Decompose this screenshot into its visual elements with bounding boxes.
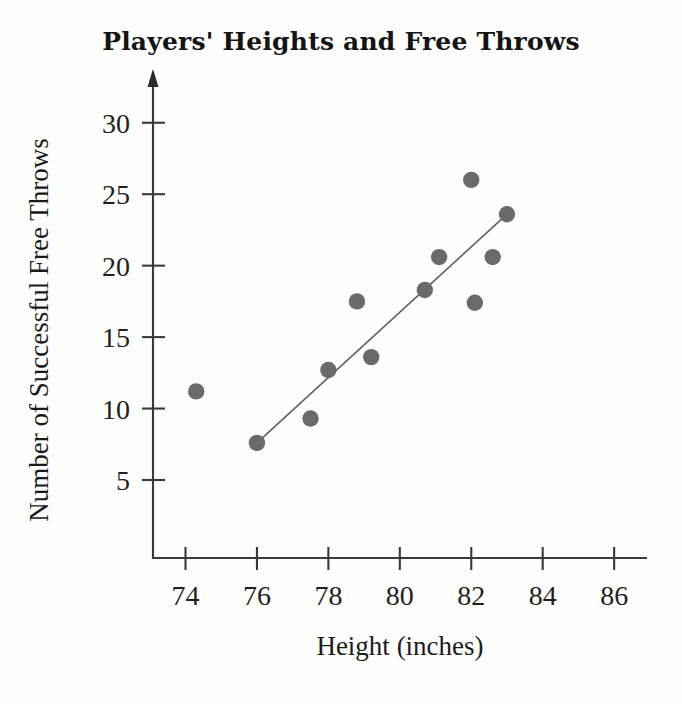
data-point [417,282,433,298]
data-point [484,249,500,265]
y-axis [148,69,159,559]
x-tick-label-76: 76 [243,580,271,611]
x-tick-label-86: 86 [600,580,628,611]
data-point [467,295,483,311]
y-axis-title: Number of Successful Free Throws [24,138,54,521]
y-tick-label-10: 10 [102,394,130,425]
y-tick-label-30: 30 [102,108,130,139]
y-axis-arrow-icon [148,69,159,87]
scatter-plot-figure: Players' Heights and Free Throws 5101520… [0,0,682,704]
data-point-group [188,172,515,451]
x-tick-label-78: 78 [314,580,342,611]
x-tick-label-74: 74 [172,580,200,611]
y-tick-group: 51015202530 [102,108,165,496]
trend-line-group [257,214,507,443]
data-point [349,293,365,309]
y-tick-label-25: 25 [102,179,130,210]
data-point [463,172,479,188]
y-tick-label-5: 5 [116,465,130,496]
data-point [499,206,515,222]
x-tick-label-80: 80 [386,580,414,611]
data-point [363,349,379,365]
trend-line [257,214,507,443]
x-tick-label-82: 82 [457,580,485,611]
data-point [320,362,336,378]
plot-canvas: 51015202530 74767880828486 Height (inche… [0,0,682,704]
data-point [249,435,265,451]
y-tick-label-15: 15 [102,322,130,353]
x-tick-group: 74767880828486 [172,547,629,611]
data-point [302,410,318,426]
y-tick-label-20: 20 [102,251,130,282]
x-axis-title: Height (inches) [316,631,483,661]
data-point [431,249,447,265]
data-point [188,383,204,399]
x-tick-label-84: 84 [529,580,557,611]
